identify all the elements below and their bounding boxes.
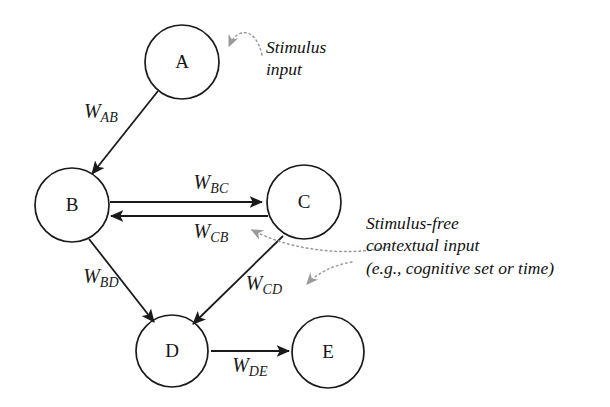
weight-symbol-cd: W	[246, 272, 263, 294]
weight-label-cd: WCD	[246, 272, 283, 298]
node-label-b: B	[66, 194, 79, 216]
annotation-stimulus-input-line-2: input	[266, 58, 326, 80]
weight-subscript-cb: CB	[210, 230, 228, 245]
weight-subscript-de: DE	[249, 364, 268, 379]
weight-symbol-ab: W	[84, 100, 101, 122]
weight-symbol-bc: W	[194, 171, 211, 193]
annotation-stimulus-input: Stimulus input	[266, 36, 326, 81]
weight-subscript-ab: AB	[101, 110, 119, 125]
dotted-arrow-contextual-to-cd	[307, 262, 352, 284]
figure-canvas: A B C D E WAB WBC WCB WBD WCD WDE Stimul…	[0, 0, 610, 407]
dotted-arrow-stimulus-input	[229, 33, 262, 55]
weight-label-bd: WBD	[83, 265, 119, 291]
node-label-a: A	[175, 51, 189, 73]
weight-subscript-bc: BC	[210, 181, 228, 196]
annotation-contextual-input-line-3: (e.g., cognitive set or time)	[366, 257, 554, 279]
weight-label-cb: WCB	[194, 220, 229, 246]
weight-label-bc: WBC	[194, 171, 229, 197]
weight-label-ab: WAB	[84, 100, 118, 126]
weight-subscript-cd: CD	[262, 282, 282, 297]
weight-label-de: WDE	[232, 354, 268, 380]
node-label-c: C	[298, 191, 311, 213]
node-label-d: D	[165, 340, 179, 362]
annotation-stimulus-input-line-1: Stimulus	[266, 36, 326, 58]
annotation-contextual-input-line-2: contextual input	[366, 234, 554, 256]
weight-symbol-cb: W	[194, 220, 211, 242]
annotation-contextual-input: Stimulus-free contextual input (e.g., co…	[366, 212, 554, 279]
node-label-e: E	[322, 341, 334, 363]
weight-symbol-bd: W	[83, 265, 100, 287]
weight-subscript-bd: BD	[100, 275, 119, 290]
weight-symbol-de: W	[232, 354, 249, 376]
annotation-contextual-input-line-1: Stimulus-free	[366, 212, 554, 234]
